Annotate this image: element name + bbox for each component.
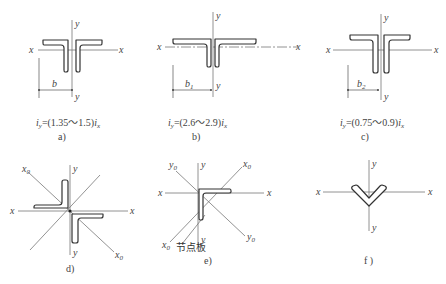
panel-b: b1 x x y y iy=(2.6～2.9)ix b) xyxy=(156,10,301,143)
caption: e) xyxy=(204,255,212,267)
dimension-tick xyxy=(38,89,40,91)
axis-label-x0-top: x0 xyxy=(21,163,30,176)
dimension-label: b2 xyxy=(357,78,366,91)
angle-upper-left xyxy=(34,180,68,208)
axis-label-y-top: y xyxy=(383,12,389,23)
axis-label-y-top: y xyxy=(74,18,80,29)
axis-label-x-right: x xyxy=(129,205,135,216)
dimension-tick xyxy=(377,89,379,91)
panel-e: x x y y y0 x0 y0 x0 节点板 e) xyxy=(157,158,272,267)
axis-label-x-right: x xyxy=(118,44,124,55)
angle-left xyxy=(350,35,378,73)
dimension-label: b xyxy=(52,78,57,89)
caption: d) xyxy=(66,263,74,275)
panel-f: x x y y f ) xyxy=(315,158,433,267)
axis-label-x0-bottom: x0 xyxy=(114,249,123,262)
axis-label-y-top: y xyxy=(72,163,78,174)
angle-right xyxy=(76,40,102,72)
angle-right xyxy=(215,39,256,67)
axis-label-x-left: x xyxy=(325,44,331,55)
caption: a) xyxy=(58,131,66,143)
dimension-label: b1 xyxy=(185,78,194,91)
axis-label-y-top: y xyxy=(371,158,377,169)
angle-left xyxy=(173,39,211,67)
axis-label-x-left: x xyxy=(157,187,163,198)
panel-c: b2 x x y y iy=(0.75～0.9)ix c) xyxy=(325,12,439,143)
axis-label-y-bottom: y xyxy=(72,247,78,258)
axis-label-x-right: x xyxy=(433,44,439,55)
axis-label-y-top: y xyxy=(215,10,221,21)
axis-label-y-bottom: y xyxy=(371,222,377,233)
axis-label-x-left: x xyxy=(9,205,15,216)
axis-label-y-top: y xyxy=(200,159,206,170)
angle-lower-right xyxy=(72,214,103,243)
angle-left xyxy=(43,40,68,72)
y0-axis xyxy=(176,171,245,236)
axis-label-y-bottom: y xyxy=(383,91,389,102)
axis-label-y-bottom: y xyxy=(215,80,221,91)
panel-d: x x y y x0 x0 d) xyxy=(9,163,135,275)
axis-label-y-bottom: y xyxy=(74,91,80,102)
axis-label-y0-top: y0 xyxy=(168,159,177,172)
formula: iy=(2.6～2.9)ix xyxy=(168,117,228,130)
axis-label-x-left: x xyxy=(28,44,34,55)
caption: b) xyxy=(192,131,200,143)
axis-label-x0-bottom: x0 xyxy=(161,239,170,252)
panel-a: b x x y y iy=(1.35～1.5)ix a) xyxy=(28,18,124,143)
formula: iy=(0.75～0.9)ix xyxy=(340,117,405,130)
axis-label-y0-bottom: y0 xyxy=(246,231,255,244)
axis-label-x-left: x xyxy=(156,41,162,52)
caption: c) xyxy=(361,131,369,143)
dimension-tick xyxy=(172,89,174,91)
x0-axis xyxy=(170,167,242,242)
axis-label-x-right: x xyxy=(295,41,301,52)
formula: iy=(1.35～1.5)ix xyxy=(36,117,101,130)
dimension-tick xyxy=(347,89,349,91)
dimension-tick xyxy=(71,89,73,91)
caption: f ) xyxy=(364,255,373,267)
angle-right xyxy=(384,35,410,73)
axis-label-x-right: x xyxy=(266,187,272,198)
dimension-tick xyxy=(210,89,212,91)
gusset-plate-label: 节点板 xyxy=(176,241,206,253)
centroid-point xyxy=(68,209,71,212)
angle-sections-diagram: b x x y y iy=(1.35～1.5)ix a) b1 x x y y … xyxy=(0,0,446,284)
axis-label-x-right: x xyxy=(427,186,433,197)
axis-label-x-left: x xyxy=(315,186,321,197)
single-angle xyxy=(199,189,231,220)
axis-label-x0-top: x0 xyxy=(242,158,251,171)
